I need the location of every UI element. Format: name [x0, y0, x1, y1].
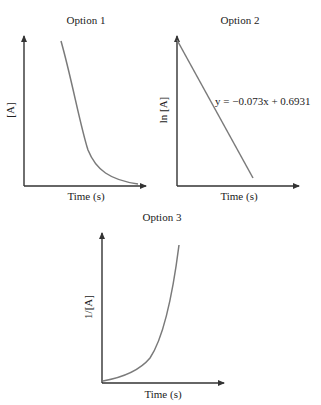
chart-option-3: Option 3 1/[A] Time (s): [82, 211, 224, 401]
decay-curve: [61, 41, 138, 184]
linear-fit-line: [177, 40, 253, 178]
y-axis-label: ln [A]: [157, 97, 169, 124]
rate-law-graphs: Option 1 [A] Time (s) Option 2 ln [A] Ti…: [0, 0, 321, 405]
x-axis-label: Time (s): [144, 388, 182, 401]
chart-option-1: Option 1 [A] Time (s): [4, 14, 146, 203]
chart-title: Option 1: [67, 14, 106, 26]
y-axis-label: 1/[A]: [82, 295, 94, 319]
chart-option-2: Option 2 ln [A] Time (s) y = −0.073x + 0…: [157, 14, 311, 203]
equation-annotation: y = −0.073x + 0.6931: [215, 95, 311, 107]
growth-curve: [103, 245, 179, 381]
x-axis-label: Time (s): [220, 190, 258, 203]
chart-title: Option 2: [221, 14, 260, 26]
x-axis-label: Time (s): [67, 190, 105, 203]
y-axis-label: [A]: [4, 102, 16, 117]
chart-title: Option 3: [143, 211, 182, 223]
